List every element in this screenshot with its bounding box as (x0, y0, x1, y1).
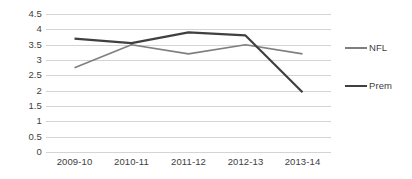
y-axis-tick-label: 2.5 (0, 70, 42, 80)
legend-item-prem[interactable]: Prem (345, 80, 392, 92)
x-axis-tick-label: 2010-11 (114, 157, 149, 167)
y-axis-tick-label: 3.5 (0, 40, 42, 50)
series-line-prem (75, 32, 303, 92)
y-axis-tick-label: 0.5 (0, 132, 42, 142)
y-axis-tick-label: 3 (0, 55, 42, 65)
legend-item-nfl[interactable]: NFL (345, 42, 387, 54)
series-layer (46, 14, 331, 152)
legend-line-nfl (345, 47, 367, 49)
legend-swatch-prem (345, 85, 367, 87)
x-axis-tick-label: 2011-12 (171, 157, 206, 167)
plot-area (46, 14, 331, 152)
legend-line-prem (345, 85, 367, 87)
y-axis-tick-label: 1 (0, 116, 42, 126)
legend-swatch-nfl (345, 47, 367, 49)
x-axis: 2009-102010-112011-122012-132013-14 (46, 157, 331, 173)
y-axis-tick-label: 4 (0, 24, 42, 34)
y-axis-tick-label: 0 (0, 147, 42, 157)
x-axis-tick-label: 2013-14 (285, 157, 321, 167)
y-axis-tick-label: 1.5 (0, 101, 42, 111)
y-axis-tick-label: 4.5 (0, 9, 42, 19)
x-axis-tick-label: 2012-13 (228, 157, 264, 167)
y-axis: 00.511.522.533.544.5 (0, 0, 42, 179)
legend-label-nfl: NFL (367, 43, 387, 53)
legend-label-prem: Prem (367, 81, 392, 91)
x-axis-tick-label: 2009-10 (57, 157, 93, 167)
y-axis-tick-label: 2 (0, 86, 42, 96)
line-chart: 00.511.522.533.544.5 2009-102010-112011-… (0, 0, 412, 179)
series-line-nfl (75, 45, 303, 68)
gridline (46, 152, 331, 153)
